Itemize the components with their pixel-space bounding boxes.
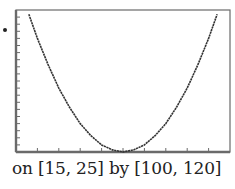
parabola-curve <box>29 14 217 152</box>
plot-frame <box>16 10 230 152</box>
window-caption: on [15, 25] by [100, 120] <box>12 158 235 178</box>
graph-window <box>0 0 235 160</box>
